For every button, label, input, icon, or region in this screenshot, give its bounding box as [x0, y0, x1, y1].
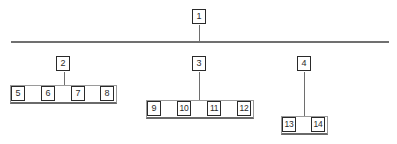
node-1: 1 [192, 9, 206, 24]
node-11: 11 [207, 101, 221, 116]
node-6: 6 [41, 86, 55, 101]
node-5: 5 [11, 86, 25, 101]
connector-4-to-group [304, 72, 305, 116]
main-bus-line [11, 41, 389, 43]
node-8: 8 [100, 86, 114, 101]
node-3: 3 [192, 56, 206, 71]
node-4: 4 [297, 56, 311, 71]
node-7: 7 [71, 86, 85, 101]
node-9: 9 [147, 101, 161, 116]
node-2: 2 [56, 56, 70, 71]
node-10: 10 [177, 101, 191, 116]
node-12: 12 [237, 101, 251, 116]
hierarchy-diagram: 1 2 5 6 7 8 3 9 10 11 12 4 13 14 [0, 0, 397, 144]
node-14: 14 [311, 117, 325, 132]
node-13: 13 [282, 117, 296, 132]
connector-3-to-group [199, 72, 200, 100]
connector-1-to-bus [199, 25, 200, 42]
connector-2-to-group [64, 72, 65, 85]
